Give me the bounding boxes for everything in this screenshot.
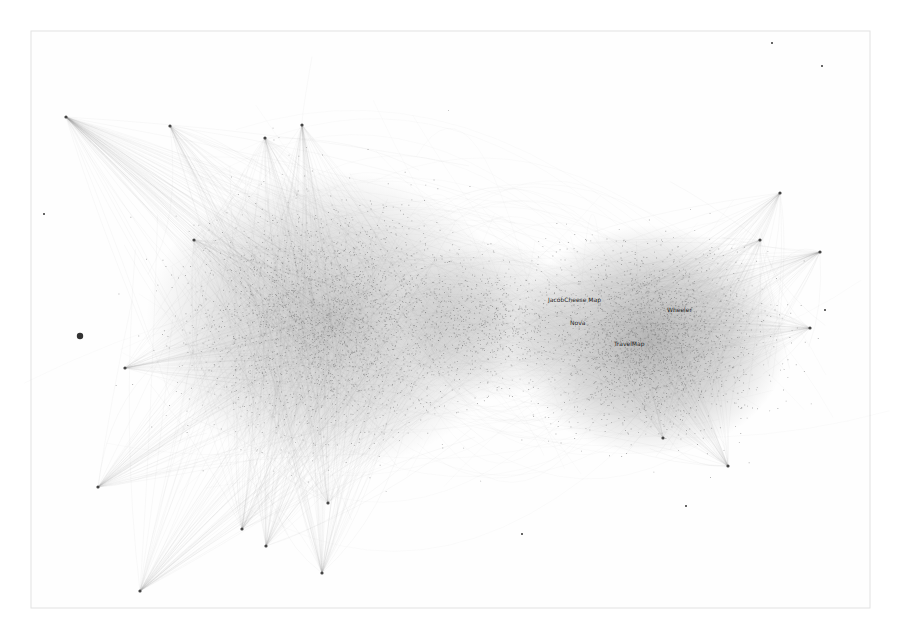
isolated-node [685, 505, 687, 507]
node-label: JacobCheese Map [547, 296, 601, 304]
hub-node [300, 123, 303, 126]
isolated-node [43, 213, 45, 215]
isolated-node [521, 533, 523, 535]
hub-node [192, 238, 195, 241]
node-label: TravelMap [613, 340, 645, 348]
hub-node [123, 366, 126, 369]
hub-node [778, 191, 781, 194]
bridge [398, 240, 582, 401]
hub-node [818, 250, 821, 253]
hub-node [64, 115, 67, 118]
hub-node [240, 527, 243, 530]
hub-node [264, 544, 267, 547]
hub-node [96, 485, 99, 488]
hub-node [168, 124, 171, 127]
hub-node [320, 571, 323, 574]
node-label: Wheeler [667, 306, 692, 313]
hub-node [661, 436, 664, 439]
hub-node [808, 326, 811, 329]
hub-node [138, 589, 141, 592]
hub-node [326, 501, 329, 504]
hub-node [726, 464, 729, 467]
isolated-node [821, 65, 823, 67]
isolated-node [77, 333, 83, 339]
node-label: Nova [570, 319, 586, 326]
network-graph: JacobCheese MapNovaWheelerTravelMap [0, 0, 897, 634]
isolated-node [824, 309, 826, 311]
hub-node [263, 136, 266, 139]
hub-node [758, 238, 761, 241]
isolated-node [771, 42, 773, 44]
